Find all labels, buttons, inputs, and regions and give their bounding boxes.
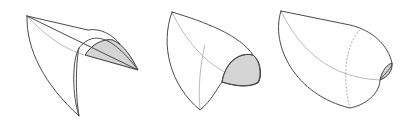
shape-1-outline <box>27 16 138 116</box>
shape-1 <box>27 16 138 116</box>
shape-3 <box>278 11 392 108</box>
shape-3-outline <box>278 11 392 108</box>
shape-3-inner-edge <box>346 30 360 108</box>
shape-1-inner-seam <box>27 16 84 55</box>
shape-1-shaded-interior <box>85 40 138 70</box>
figure-canvas <box>0 0 412 126</box>
shape-2 <box>167 12 261 110</box>
shape-2-shaded-interior <box>222 54 261 85</box>
